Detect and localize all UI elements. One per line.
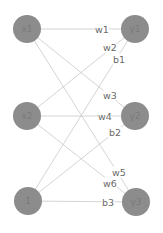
edge-label-b1: b1 <box>113 54 126 65</box>
node-label: x1 <box>21 24 32 34</box>
edge-weight-label: w3 <box>103 90 117 101</box>
node-label: x2 <box>21 111 32 121</box>
edge-bias-y3 <box>28 201 136 202</box>
edge-label-w3: w3 <box>103 90 117 101</box>
edge-weight-label: w1 <box>95 24 109 35</box>
node-x1: x1 <box>13 15 41 43</box>
edge-weight-label: b2 <box>109 127 121 138</box>
node-y3: y3 <box>122 188 150 216</box>
edge-weight-label: w2 <box>103 42 117 53</box>
node-label: 1 <box>25 196 31 206</box>
edge-weight-label: w5 <box>112 167 126 178</box>
edge-label-w5: w5 <box>112 167 126 178</box>
node-label: y3 <box>130 197 141 207</box>
node-label: y2 <box>129 111 140 121</box>
network-diagram: w1w2b1w3w4b2w5w6b3 x1x21y1y2y3 <box>0 0 163 233</box>
node-y2: y2 <box>121 102 149 130</box>
edge-label-w1: w1 <box>95 24 109 35</box>
edge-weight-label: b3 <box>102 197 114 208</box>
edge-label-w6: w6 <box>103 178 117 189</box>
edge-label-b3: b3 <box>102 197 115 208</box>
node-label: y1 <box>129 24 140 34</box>
edge-label-b2: b2 <box>109 127 122 138</box>
edge-weight-label: b1 <box>113 54 125 65</box>
edge-weight-label: w4 <box>98 111 112 122</box>
edge-label-w4: w4 <box>98 111 112 122</box>
node-bias: 1 <box>14 187 42 215</box>
node-y1: y1 <box>121 15 149 43</box>
edge-label-w2: w2 <box>103 42 117 53</box>
edge-weight-label: w6 <box>103 178 117 189</box>
node-x2: x2 <box>13 102 41 130</box>
